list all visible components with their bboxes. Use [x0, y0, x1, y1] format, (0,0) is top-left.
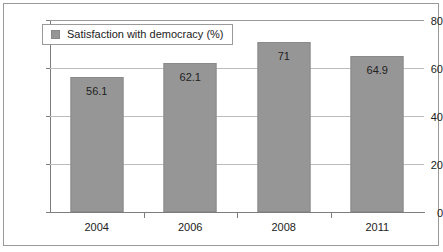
- x-tick-label-2011: 2011: [331, 222, 425, 233]
- bar-2006[interactable]: 62.1: [164, 63, 217, 212]
- x-tick-mark-1: [144, 213, 145, 218]
- x-tick-mark-2: [237, 213, 238, 218]
- bar-value-2004: 56.1: [71, 86, 122, 97]
- bars-layer: 56.1 62.1 71 64.9: [50, 20, 424, 212]
- bar-slot-2004: 56.1: [50, 20, 144, 212]
- legend-swatch-icon: [51, 30, 60, 39]
- bar-slot-2008: 71: [237, 20, 331, 212]
- bar-value-2008: 71: [258, 51, 309, 62]
- x-tick-label-2008: 2008: [237, 222, 331, 233]
- bar-2004[interactable]: 56.1: [70, 77, 123, 212]
- bar-chart: 80 60 40 20 0 56.1 62.1 71: [0, 0, 443, 252]
- bar-value-2006: 62.1: [165, 72, 216, 83]
- x-tick-label-2004: 2004: [50, 222, 144, 233]
- x-tick-label-2006: 2006: [144, 222, 238, 233]
- legend-label-satisfaction: Satisfaction with democracy (%): [67, 29, 224, 40]
- bar-2008[interactable]: 71: [257, 42, 310, 212]
- chart-legend[interactable]: Satisfaction with democracy (%): [42, 24, 233, 45]
- bar-slot-2006: 62.1: [144, 20, 238, 212]
- bar-2011[interactable]: 64.9: [351, 56, 404, 212]
- bar-value-2011: 64.9: [352, 65, 403, 76]
- x-tick-mark-3: [331, 213, 332, 218]
- bar-slot-2011: 64.9: [331, 20, 425, 212]
